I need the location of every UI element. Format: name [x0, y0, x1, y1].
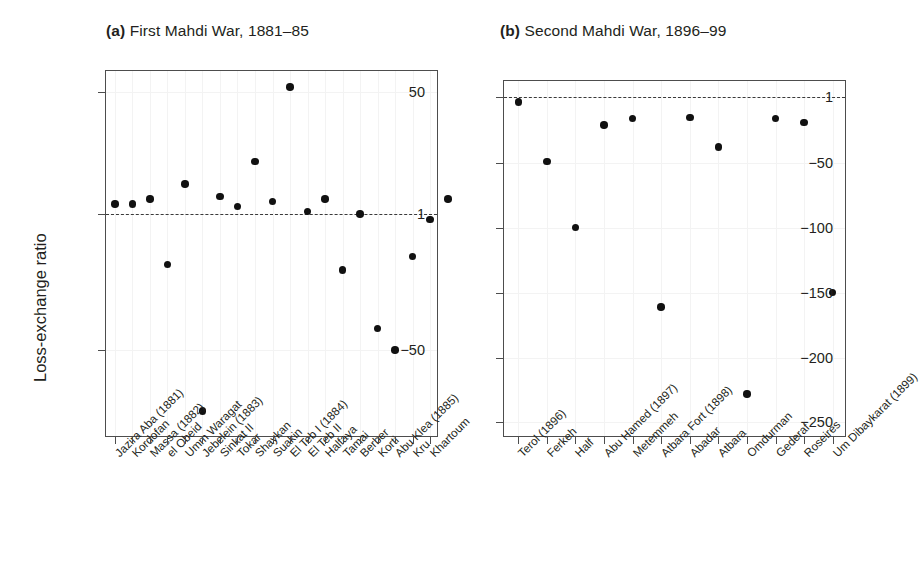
x-axis-tick — [202, 436, 203, 444]
data-point — [800, 119, 808, 127]
panel-b-title: (b) Second Mahdi War, 1896–99 — [500, 22, 726, 40]
y-axis-tick — [496, 163, 504, 164]
x-axis-tick — [150, 436, 151, 444]
x-axis-tick — [185, 436, 186, 444]
gridline-vertical — [430, 71, 431, 436]
gridline-vertical — [220, 71, 221, 436]
gridline-horizontal — [106, 92, 437, 93]
y-axis-tick — [496, 358, 504, 359]
x-axis-tick — [273, 436, 274, 444]
x-axis-tick — [167, 436, 168, 444]
gridline-vertical — [518, 81, 519, 436]
gridline-vertical — [833, 81, 834, 436]
gridline-vertical — [360, 71, 361, 436]
data-point — [543, 158, 551, 166]
x-axis-tick — [633, 436, 634, 444]
data-point — [269, 198, 277, 206]
x-axis-tick — [776, 436, 777, 444]
x-axis-tick — [343, 436, 344, 444]
data-point — [629, 115, 637, 123]
y-axis-tick — [98, 92, 106, 93]
x-axis-tick — [132, 436, 133, 444]
gridline-vertical — [378, 71, 379, 436]
y-axis-tick-label: 50 — [409, 84, 425, 100]
x-axis-tick — [747, 436, 748, 444]
x-axis-tick — [237, 436, 238, 444]
gridline-vertical — [290, 71, 291, 436]
gridline-vertical — [115, 71, 116, 436]
data-point — [286, 83, 294, 91]
gridline-vertical — [747, 81, 748, 436]
gridline-vertical — [633, 81, 634, 436]
x-axis-tick — [690, 436, 691, 444]
x-axis-tick — [833, 436, 834, 444]
panel-a-title: (a) First Mahdi War, 1881–85 — [106, 22, 309, 40]
data-point — [743, 390, 751, 398]
data-point — [600, 121, 608, 129]
y-axis-tick-label: 1 — [825, 89, 833, 105]
gridline-vertical — [547, 81, 548, 436]
gridline-horizontal — [504, 228, 845, 229]
data-point — [111, 200, 119, 208]
gridline-vertical — [604, 81, 605, 436]
gridline-vertical — [690, 81, 691, 436]
x-axis-tick — [547, 436, 548, 444]
gridline-vertical — [185, 71, 186, 436]
y-axis-tick-label: −200 — [800, 350, 833, 366]
gridline-vertical — [150, 71, 151, 436]
gridline-vertical — [718, 81, 719, 436]
x-axis-tick — [395, 436, 396, 444]
x-axis-tick — [430, 436, 431, 444]
panel-b-plot-area: 1−50−100−150−200−250Terol (1896)FerkehHa… — [503, 80, 846, 437]
panel-a-plot-area: 501−50Jazira Aba (1881)KordofanMassa (18… — [105, 70, 438, 437]
gridline-vertical — [308, 71, 309, 436]
data-point — [129, 200, 137, 208]
data-point — [572, 224, 580, 232]
x-axis-tick — [718, 436, 719, 444]
gridline-horizontal — [504, 293, 845, 294]
data-point — [772, 115, 780, 123]
y-axis-tick-label: −100 — [800, 220, 833, 236]
y-axis-tick — [496, 293, 504, 294]
y-axis-tick — [496, 228, 504, 229]
gridline-vertical — [575, 81, 576, 436]
gridline-vertical — [273, 71, 274, 436]
x-axis-tick — [661, 436, 662, 444]
x-axis-tick — [360, 436, 361, 444]
y-axis-tick — [496, 422, 504, 423]
data-point — [234, 203, 242, 211]
gridline-horizontal — [504, 163, 845, 164]
y-axis-tick — [98, 350, 106, 351]
data-point — [686, 114, 694, 122]
gridline-vertical — [661, 81, 662, 436]
data-point — [374, 325, 382, 333]
gridline-vertical — [325, 71, 326, 436]
x-axis-tick — [378, 436, 379, 444]
x-axis-tick — [220, 436, 221, 444]
data-point — [216, 193, 224, 201]
data-point — [181, 180, 189, 188]
gridline-vertical — [132, 71, 133, 436]
data-point — [146, 195, 154, 203]
x-axis-tick — [255, 436, 256, 444]
data-point — [444, 195, 452, 203]
x-axis-tick — [290, 436, 291, 444]
data-point — [391, 346, 399, 354]
x-axis-tick — [575, 436, 576, 444]
x-axis-tick — [518, 436, 519, 444]
data-point — [715, 143, 723, 151]
gridline-horizontal — [504, 358, 845, 359]
x-axis-tick — [804, 436, 805, 444]
reference-line-ratio-1 — [504, 97, 845, 98]
y-axis-tick-label: −150 — [800, 285, 833, 301]
data-point — [339, 266, 347, 274]
data-point — [251, 158, 259, 166]
panel-b-title-text: Second Mahdi War, 1896–99 — [525, 22, 727, 39]
data-point — [356, 210, 364, 218]
gridline-vertical — [343, 71, 344, 436]
x-axis-tick — [308, 436, 309, 444]
gridline-vertical — [395, 71, 396, 436]
y-axis-tick — [98, 214, 106, 215]
y-axis-tick-label: 1 — [417, 206, 425, 222]
